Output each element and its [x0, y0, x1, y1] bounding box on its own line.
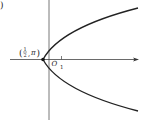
pole-label: O — [52, 60, 58, 68]
svg-text:): ) — [37, 48, 41, 58]
corner-mark: ) — [0, 0, 4, 10]
vertex-point — [41, 58, 45, 62]
vertex-label: ( 1 2 , π ) — [19, 46, 40, 59]
svg-text:π: π — [30, 49, 36, 57]
tick-label: 1 — [60, 64, 64, 70]
polar-diagram: ) ( 1 2 , π ) O 1 — [0, 0, 142, 120]
svg-text:(: ( — [19, 48, 23, 58]
svg-text:,: , — [28, 50, 30, 58]
svg-text:2: 2 — [24, 52, 27, 58]
